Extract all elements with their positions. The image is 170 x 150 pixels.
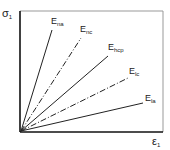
x-axis-label: ε1	[152, 135, 161, 148]
line-e-nc	[21, 38, 81, 131]
line-e-lc	[21, 78, 128, 131]
label-e-na: Ena	[51, 16, 64, 27]
label-e-hcp: Ehcp	[108, 42, 124, 53]
line-e-la	[21, 103, 143, 131]
label-e-nc: Enc	[80, 24, 92, 35]
line-e-hcp	[21, 56, 108, 131]
line-e-na	[21, 30, 52, 131]
stress-strain-diagram: σ1 ε1 Ena Enc Ehcp Elc Ela	[0, 0, 170, 150]
label-e-la: Ela	[145, 93, 156, 104]
y-axis-label: σ1	[2, 7, 13, 20]
label-e-lc: Elc	[129, 66, 139, 77]
